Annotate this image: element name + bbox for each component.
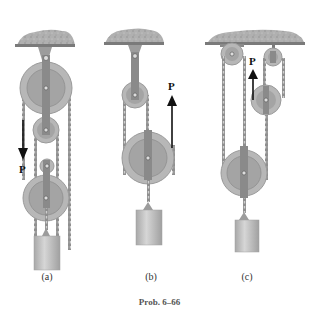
ceiling-a [17, 30, 75, 45]
weight-b [136, 210, 162, 245]
force-label-b: P [168, 80, 175, 92]
panel-label-b: (b) [140, 271, 162, 282]
force-arrow-c [248, 69, 258, 79]
force-arrow-a [18, 148, 28, 160]
force-label-c: P [249, 55, 256, 67]
panel-a [15, 30, 75, 270]
panel-label-c: (c) [236, 271, 258, 282]
panel-label-a: (a) [36, 271, 58, 282]
weight-c [235, 220, 259, 252]
force-label-a: P [19, 163, 26, 175]
weight-a [34, 236, 60, 270]
force-arrow-b [167, 95, 177, 106]
pulley-systems-figure: P P P (a) (b) (c) Prob. 6–66 [0, 0, 319, 319]
ceiling-c [207, 30, 304, 44]
figure-caption: Prob. 6–66 [0, 297, 319, 307]
ceiling-b [105, 29, 164, 44]
panel-b [104, 29, 177, 246]
